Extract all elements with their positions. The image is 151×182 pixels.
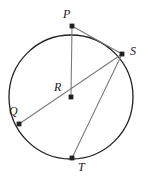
point-label-R: R [54,81,61,93]
segment-S-T [72,54,122,158]
point-marker-Q [17,122,22,127]
point-label-S: S [130,45,136,57]
point-label-T: T [78,161,85,173]
segment-Q-S [19,54,122,124]
points-group [17,24,125,161]
segments-group [19,26,122,158]
segment-P-S [72,26,122,54]
segment-P-R [71,26,72,97]
geometry-figure: P S R Q T [0,0,151,182]
point-marker-R [69,95,74,100]
point-marker-S [120,52,125,57]
point-label-Q: Q [9,105,18,117]
point-label-P: P [63,8,70,20]
geometry-canvas [0,0,151,182]
point-marker-P [70,24,75,29]
point-marker-T [70,156,75,161]
